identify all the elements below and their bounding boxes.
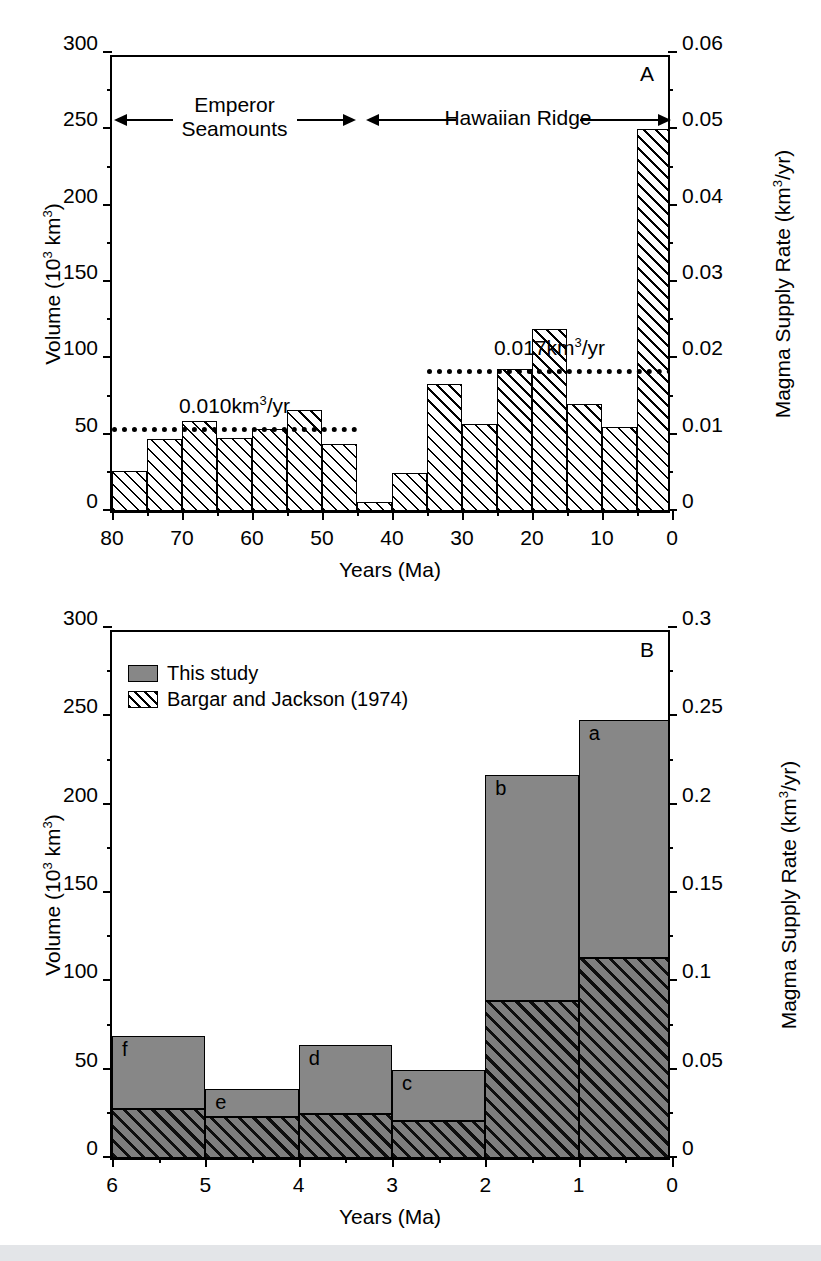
panel-b-y-tick-label: 300 [63, 607, 98, 628]
panel-b-y2-tick [668, 626, 677, 628]
panel-b-x-minor-tick [252, 1158, 254, 1163]
panel-a-y-minor-tick [107, 395, 112, 397]
panel-b-x-tick-label: 3 [386, 1174, 398, 1195]
panel-a-y-tick-label: 250 [63, 108, 98, 129]
panel-a-y2-tick-label: 0.05 [682, 108, 723, 129]
panel-a-x-tick [497, 511, 499, 516]
panel-a-x-tick-label: 0 [666, 527, 678, 548]
panel-b-x-tick [672, 1158, 674, 1167]
panel-b-y2-tick [668, 714, 677, 716]
panel-a-x-tick-label: 10 [590, 527, 613, 548]
panel-a-arrowhead-right-icon [658, 114, 671, 126]
panel-b-legend: This studyBargar and Jackson (1974) [128, 662, 408, 714]
panel-b-y2-tick [668, 1068, 677, 1070]
panel-b-y-tick-label: 150 [63, 872, 98, 893]
panel-b-y-tick [103, 1068, 112, 1070]
panel-a-range-arrow-line [126, 119, 173, 121]
panel-a-bar [602, 427, 637, 511]
panel-a-bar [182, 421, 217, 511]
panel-b-y2-tick-label: 0.05 [682, 1048, 723, 1069]
panel-a-x-tick [357, 511, 359, 516]
panel-b-y2-tick-label: 0 [682, 1137, 694, 1158]
panel-b-x-tick-label: 4 [293, 1174, 305, 1195]
panel-a-x-tick [112, 511, 114, 520]
panel-a-x-tick-label: 80 [100, 527, 123, 548]
panel-b-bar-segment-bargar-jackson [112, 1109, 205, 1158]
panel-b-y-tick-label: 0 [86, 1137, 98, 1158]
panel-a-arrowhead-left-icon [114, 114, 127, 126]
panel-b-y-tick-label: 50 [75, 1048, 98, 1069]
panel-a-x-tick [147, 511, 149, 516]
panel-b-y-minor-tick [107, 759, 112, 761]
panel-b-bar-segment-this-study [485, 775, 578, 1001]
panel-a-reference-line [112, 427, 357, 432]
panel-b-y-tick-label: 250 [63, 695, 98, 716]
panel-b-y-tick [103, 626, 112, 628]
panel-a-x-tick-label: 60 [240, 527, 263, 548]
panel-b-x-axis-title: Years (Ma) [339, 1205, 441, 1229]
panel-b-y-tick [103, 803, 112, 805]
panel-b-bar-segment-bargar-jackson [205, 1117, 298, 1158]
panel-a-x-tick-label: 50 [310, 527, 333, 548]
panel-b-x-tick [392, 1158, 394, 1167]
panel-a-y2-tick [668, 204, 677, 206]
panel-b-y-tick-label: 200 [63, 783, 98, 804]
panel-a-reference-label: 0.017km3/yr [494, 335, 605, 360]
panel-b-y-tick-label: 100 [63, 960, 98, 981]
panel-b-y2-minor-tick [668, 935, 673, 937]
panel-b-y-minor-tick [107, 847, 112, 849]
panel-b-bar-letter: b [495, 777, 506, 800]
panel-b-y2-tick [668, 891, 677, 893]
panel-b-y-minor-tick [107, 670, 112, 672]
panel-a-bar [287, 410, 322, 511]
panel-a-y-tick [103, 51, 112, 53]
panel-b-x-tick [205, 1158, 207, 1167]
panel-b-y-minor-tick [107, 935, 112, 937]
panel-a-bar [217, 438, 252, 511]
panel-b-y2-tick-label: 0.2 [682, 783, 711, 804]
panel-b-y2-tick-label: 0.15 [682, 872, 723, 893]
panel-a-bar [567, 404, 602, 511]
panel-a-x-tick [287, 511, 289, 516]
panel-b-legend-label: This study [167, 662, 258, 685]
panel-a-x-tick [567, 511, 569, 516]
panel-b-y-tick [103, 979, 112, 981]
panel-b-x-tick [112, 1158, 114, 1167]
panel-a-x-tick [427, 511, 429, 516]
panel-b-bar-letter: d [309, 1047, 320, 1070]
panel-a-y2-tick-label: 0 [682, 490, 694, 511]
panel-a-y-tick-label: 100 [63, 337, 98, 358]
panel-a-y2-tick-label: 0.06 [682, 32, 723, 53]
panel-b-x-tick [299, 1158, 301, 1167]
panel-b-y-axis-title: Volume (103 km3) [40, 814, 65, 976]
panel-a-y2-minor-tick [668, 471, 673, 473]
panel-a-x-tick [672, 511, 674, 520]
panel-b-x-tick-label: 1 [573, 1174, 585, 1195]
panel-a-x-tick [532, 511, 534, 520]
panel-b-y2-minor-tick [668, 759, 673, 761]
panel-a-x-tick-label: 40 [380, 527, 403, 548]
panel-a-y2-minor-tick [668, 242, 673, 244]
panel-b-x-tick-label: 5 [199, 1174, 211, 1195]
panel-a-reference-line [427, 369, 668, 374]
panel-b-y-tick [103, 891, 112, 893]
panel-a-range-arrow-line [297, 119, 344, 121]
panel-b-y-minor-tick [107, 1112, 112, 1114]
panel-a-y2-tick-label: 0.03 [682, 261, 723, 282]
panel-a-y2-minor-tick [668, 89, 673, 91]
panel-a-y2-minor-tick [668, 166, 673, 168]
panel-a-x-tick-label: 20 [520, 527, 543, 548]
panel-a-x-tick-label: 70 [170, 527, 193, 548]
panel-a-y2-tick [668, 51, 677, 53]
panel-a-y-tick [103, 280, 112, 282]
panel-b-x-minor-tick [345, 1158, 347, 1163]
panel-a: 0.010km3/yr0.017km3/yrEmperorSeamountsHa… [0, 0, 821, 580]
panel-b-bar-segment-bargar-jackson [579, 958, 668, 1158]
panel-b-x-tick-label: 2 [479, 1174, 491, 1195]
panel-b-bar-segment-bargar-jackson [485, 1001, 578, 1158]
panel-b-legend-label: Bargar and Jackson (1974) [167, 688, 408, 711]
panel-a-y-minor-tick [107, 471, 112, 473]
panel-a-y2-tick [668, 127, 677, 129]
panel-b-legend-item: This study [128, 662, 408, 685]
panel-a-y-minor-tick [107, 242, 112, 244]
